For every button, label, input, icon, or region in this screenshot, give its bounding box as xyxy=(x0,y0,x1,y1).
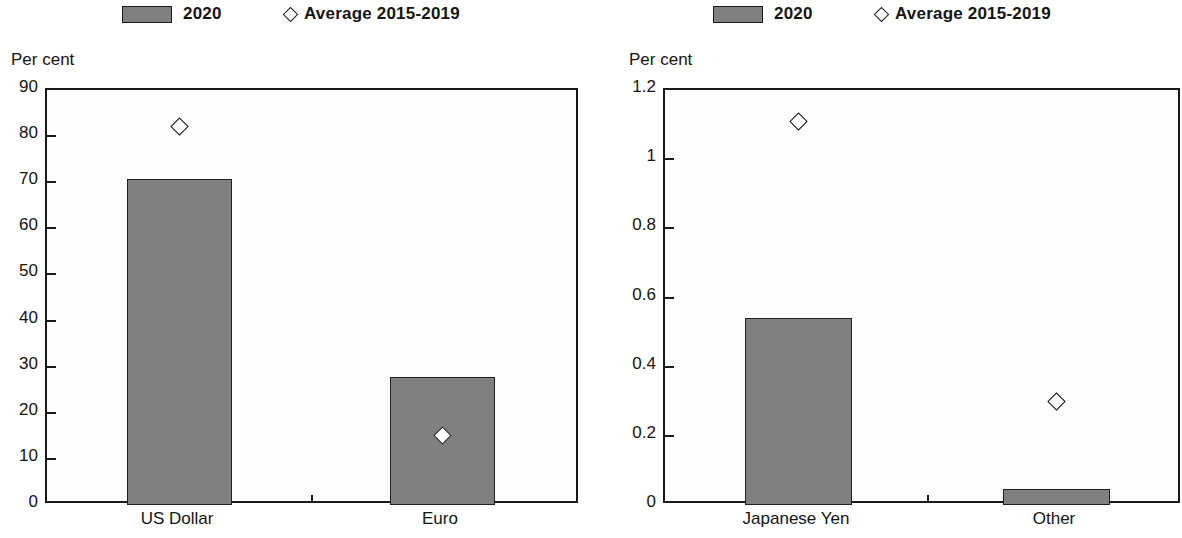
y-tick-mark xyxy=(665,435,674,437)
x-axis-category-label: Other xyxy=(954,509,1154,529)
y-tick-mark xyxy=(665,366,674,368)
y-tick-label: 0.2 xyxy=(591,423,656,443)
y-tick-label: 0.6 xyxy=(591,285,656,305)
bar-us-dollar xyxy=(127,179,232,505)
marker-average-japanese-yen xyxy=(789,112,807,130)
legend-right: 2020 Average 2015-2019 xyxy=(591,0,1182,30)
y-tick-label: 0 xyxy=(591,492,656,512)
y-axis-title-left: Per cent xyxy=(11,50,74,70)
y-tick-mark xyxy=(47,366,56,368)
diamond-outline-icon xyxy=(874,6,890,22)
y-tick-label: 50 xyxy=(0,261,38,281)
y-tick-label: 20 xyxy=(0,400,38,420)
y-tick-label: 1 xyxy=(591,146,656,166)
y-tick-label: 70 xyxy=(0,169,38,189)
y-tick-mark xyxy=(665,227,674,229)
y-axis-title-right: Per cent xyxy=(629,50,692,70)
y-tick-mark xyxy=(665,158,674,160)
y-tick-label: 0 xyxy=(0,492,38,512)
y-tick-label: 1.2 xyxy=(591,77,656,97)
legend-item-2020: 2020 xyxy=(713,2,813,26)
marker-average-us-dollar xyxy=(170,118,188,136)
x-axis-mid-tick xyxy=(311,495,313,503)
chart-panel-right: 2020 Average 2015-2019 Per cent 00.20.40… xyxy=(591,0,1182,538)
legend-label-2020: 2020 xyxy=(774,4,813,24)
bar-japanese-yen xyxy=(745,318,852,505)
y-tick-mark xyxy=(47,273,56,275)
y-tick-mark xyxy=(47,227,56,229)
y-tick-label: 30 xyxy=(0,354,38,374)
legend-label-2020: 2020 xyxy=(183,4,222,24)
x-axis-mid-tick xyxy=(927,495,929,503)
plot-area-right xyxy=(663,88,1180,503)
y-tick-mark xyxy=(47,458,56,460)
marker-average-other xyxy=(1047,392,1065,410)
legend-label-average: Average 2015-2019 xyxy=(304,4,460,24)
legend-swatch-icon xyxy=(713,6,763,23)
y-tick-mark xyxy=(47,320,56,322)
x-axis-category-label: Euro xyxy=(340,509,540,529)
legend-swatch-icon xyxy=(122,6,172,23)
x-axis-category-label: Japanese Yen xyxy=(696,509,896,529)
legend-left: 2020 Average 2015-2019 xyxy=(0,0,591,30)
legend-label-average: Average 2015-2019 xyxy=(895,4,1051,24)
legend-item-average: Average 2015-2019 xyxy=(285,2,460,26)
y-tick-mark xyxy=(665,297,674,299)
y-tick-label: 10 xyxy=(0,446,38,466)
bar-other xyxy=(1003,489,1110,505)
y-tick-label: 0.4 xyxy=(591,354,656,374)
legend-item-average: Average 2015-2019 xyxy=(876,2,1051,26)
plot-area-left xyxy=(45,88,578,503)
y-tick-label: 40 xyxy=(0,308,38,328)
y-tick-label: 80 xyxy=(0,123,38,143)
legend-item-2020: 2020 xyxy=(122,2,222,26)
y-tick-label: 90 xyxy=(0,77,38,97)
y-tick-mark xyxy=(47,181,56,183)
chart-panel-left: 2020 Average 2015-2019 Per cent 01020304… xyxy=(0,0,591,538)
y-tick-mark xyxy=(47,412,56,414)
y-tick-label: 60 xyxy=(0,215,38,235)
diamond-outline-icon xyxy=(283,6,299,22)
y-tick-mark xyxy=(47,135,56,137)
y-tick-label: 0.8 xyxy=(591,215,656,235)
x-axis-category-label: US Dollar xyxy=(77,509,277,529)
